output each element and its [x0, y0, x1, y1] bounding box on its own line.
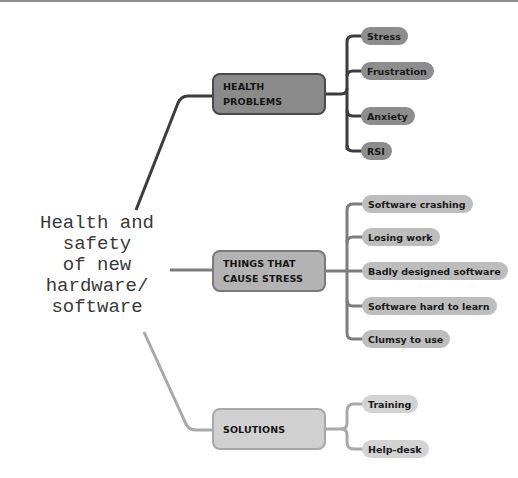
central-topic[interactable]: Health and safety of new hardware/ softw…	[12, 213, 182, 318]
leaf-label: Clumsy to use	[368, 334, 443, 345]
connector-solutions-leaves	[326, 404, 363, 449]
leaf-software-hard-to-learn[interactable]: Software hard to learn	[362, 297, 497, 315]
leaf-label: Training	[368, 399, 411, 410]
leaf-label: RSI	[367, 146, 385, 157]
leaf-label: Software crashing	[368, 199, 466, 210]
branch-solutions[interactable]: SOLUTIONS	[212, 408, 326, 450]
leaf-label: Anxiety	[367, 111, 408, 122]
leaf-frustration[interactable]: Frustration	[361, 62, 434, 80]
branch-things-that-cause-stress[interactable]: THINGS THAT CAUSE STRESS	[212, 250, 326, 292]
leaf-label: Stress	[367, 31, 401, 42]
central-topic-line: safety	[12, 234, 182, 255]
leaf-stress[interactable]: Stress	[361, 27, 408, 45]
connector-central-solutions	[144, 332, 212, 430]
leaf-label: Badly designed software	[368, 266, 501, 277]
central-topic-line: Health and	[12, 213, 182, 234]
branch-label-line: CAUSE STRESS	[223, 271, 303, 286]
central-topic-line: of new	[12, 255, 182, 276]
leaf-rsi[interactable]: RSI	[361, 142, 392, 160]
leaf-losing-work[interactable]: Losing work	[362, 228, 440, 246]
leaf-help-desk[interactable]: Help-desk	[362, 440, 429, 458]
leaf-label: Help-desk	[368, 444, 422, 455]
connector-central-health	[136, 96, 212, 210]
branch-label: SOLUTIONS	[223, 422, 285, 437]
leaf-training[interactable]: Training	[362, 395, 418, 413]
leaf-anxiety[interactable]: Anxiety	[361, 107, 415, 125]
branch-label-line: THINGS THAT	[223, 256, 303, 271]
connector-stress-leaves	[326, 204, 363, 339]
central-topic-line: software	[12, 297, 182, 318]
branch-health-problems[interactable]: HEALTH PROBLEMS	[212, 73, 326, 115]
leaf-label: Losing work	[368, 232, 433, 243]
central-topic-line: hardware/	[12, 276, 182, 297]
leaf-software-crashing[interactable]: Software crashing	[362, 195, 473, 213]
leaf-clumsy-to-use[interactable]: Clumsy to use	[362, 330, 450, 348]
leaf-badly-designed-software[interactable]: Badly designed software	[362, 262, 508, 280]
branch-label: HEALTH PROBLEMS	[223, 79, 324, 109]
connector-health-leaves	[326, 36, 362, 151]
leaf-label: Frustration	[367, 66, 427, 77]
leaf-label: Software hard to learn	[368, 301, 490, 312]
